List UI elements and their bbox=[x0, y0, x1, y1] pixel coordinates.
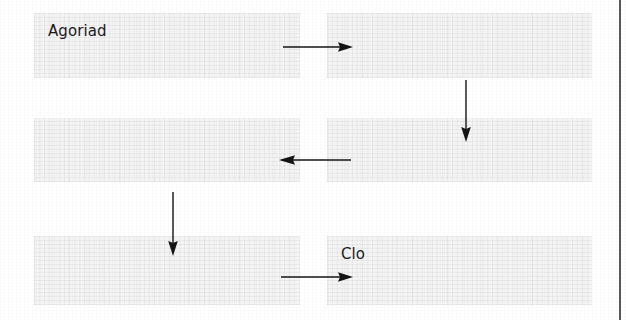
diagram-page: Agoriad Clo bbox=[0, 0, 626, 320]
flow-node-label: Agoriad bbox=[48, 22, 107, 40]
arrow-down-icon bbox=[167, 192, 179, 256]
flow-node-agoriad[interactable]: Agoriad bbox=[34, 13, 300, 78]
flow-node-label: Clo bbox=[341, 245, 365, 263]
arrow-right-icon bbox=[283, 41, 353, 53]
arrow-left-icon bbox=[279, 154, 351, 166]
arrow-down-icon bbox=[460, 80, 472, 142]
arrow-right-icon bbox=[281, 271, 353, 283]
flow-node-clo[interactable]: Clo bbox=[327, 236, 592, 305]
flow-node-2[interactable] bbox=[327, 13, 592, 78]
flow-node-3[interactable] bbox=[34, 118, 300, 182]
page-right-rule bbox=[619, 0, 621, 320]
